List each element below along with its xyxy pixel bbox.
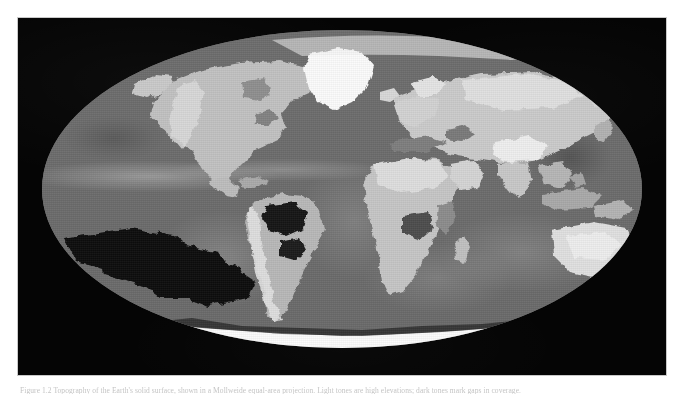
- mollweide-globe: [42, 30, 642, 348]
- figure-caption-text: Figure 1.2 Topography of the Earth's sol…: [20, 386, 521, 394]
- map-image-panel: [18, 18, 666, 375]
- raster-speckle-overlay: [42, 30, 642, 348]
- figure-container: Figure 1.2 Topography of the Earth's sol…: [0, 0, 684, 394]
- figure-caption: Figure 1.2 Topography of the Earth's sol…: [20, 386, 660, 394]
